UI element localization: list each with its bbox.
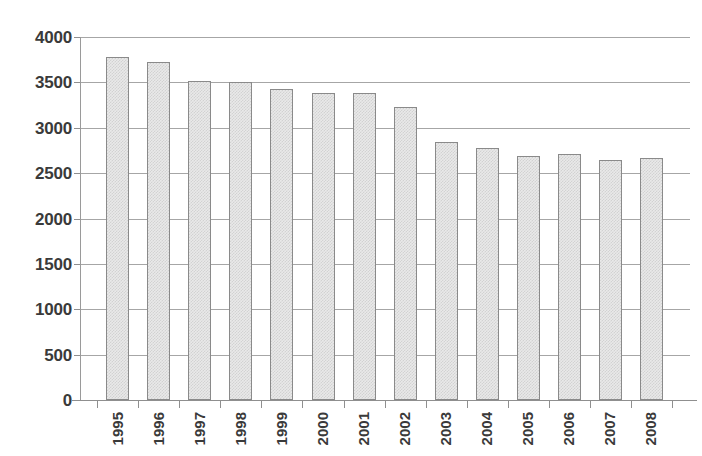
y-tick-mark [74, 400, 80, 401]
y-tick-label: 0 [10, 392, 72, 409]
y-tick-mark [74, 355, 80, 356]
x-tick-label-2005: 2005 [520, 412, 536, 445]
y-tick-label: 2500 [10, 165, 72, 182]
y-axis-labels: 05001000150020002500300035004000 [0, 0, 72, 456]
y-tick-label: 500 [10, 347, 72, 364]
x-tick-mark [467, 401, 468, 408]
y-tick-mark [74, 82, 80, 83]
y-tick-label: 2000 [10, 211, 72, 228]
x-tick-mark [590, 401, 591, 408]
y-tick-label: 4000 [10, 29, 72, 46]
x-tick-label-2007: 2007 [602, 412, 618, 445]
gridline-3500 [80, 82, 690, 83]
gridline-4000 [80, 37, 690, 38]
bar-1999 [270, 89, 293, 400]
x-tick-mark [549, 401, 550, 408]
y-tick-label: 1000 [10, 301, 72, 318]
bar-2007 [599, 160, 622, 400]
x-tick-mark [261, 401, 262, 408]
bar-2002 [394, 107, 417, 400]
bar-2000 [312, 93, 335, 400]
x-tick-label-1999: 1999 [274, 412, 290, 445]
x-tick-label-2004: 2004 [479, 412, 495, 445]
y-axis-line [80, 37, 81, 400]
y-tick-mark [74, 309, 80, 310]
y-tick-label: 3000 [10, 120, 72, 137]
bar-2008 [640, 158, 663, 400]
x-tick-mark [302, 401, 303, 408]
x-tick-label-2003: 2003 [438, 412, 454, 445]
x-tick-mark [672, 401, 673, 408]
x-tick-label-2000: 2000 [315, 412, 331, 445]
x-tick-mark [97, 401, 98, 408]
x-tick-mark [631, 401, 632, 408]
y-tick-mark [74, 219, 80, 220]
plot-area [80, 37, 690, 400]
y-tick-mark [74, 264, 80, 265]
bar-1998 [229, 82, 252, 400]
x-tick-label-1995: 1995 [110, 412, 126, 445]
x-tick-mark [508, 401, 509, 408]
x-tick-label-1996: 1996 [151, 412, 167, 445]
bar-1996 [147, 62, 170, 400]
bar-2005 [517, 156, 540, 400]
bar-1997 [188, 81, 211, 400]
bar-1995 [106, 57, 129, 400]
bar-chart: 05001000150020002500300035004000 1995199… [0, 0, 702, 456]
x-tick-mark [220, 401, 221, 408]
x-tick-mark [385, 401, 386, 408]
y-tick-label: 3500 [10, 74, 72, 91]
bar-2003 [435, 142, 458, 400]
x-tick-label-1997: 1997 [192, 412, 208, 445]
x-tick-label-2008: 2008 [643, 412, 659, 445]
y-tick-mark [74, 173, 80, 174]
x-tick-label-1998: 1998 [233, 412, 249, 445]
x-tick-label-2002: 2002 [397, 412, 413, 445]
y-tick-mark [74, 128, 80, 129]
bar-2004 [476, 148, 499, 400]
x-tick-mark [426, 401, 427, 408]
x-tick-mark [344, 401, 345, 408]
y-tick-label: 1500 [10, 256, 72, 273]
gridline-3000 [80, 128, 690, 129]
bar-2001 [353, 93, 376, 400]
x-tick-label-2006: 2006 [561, 412, 577, 445]
x-tick-mark [179, 401, 180, 408]
bar-2006 [558, 154, 581, 400]
y-tick-mark [74, 37, 80, 38]
x-tick-mark [138, 401, 139, 408]
x-tick-label-2001: 2001 [356, 412, 372, 445]
